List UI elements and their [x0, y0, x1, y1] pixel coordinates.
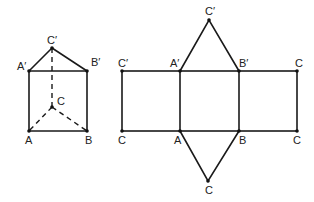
- diagram-canvas: C′ A′ B′ C A B C′ C′ A′ B′ C C A B C C: [0, 0, 314, 202]
- net-outer-rectangle: [122, 71, 297, 131]
- label-prism-b: B: [85, 135, 92, 146]
- label-net-bottom-apex: C: [205, 185, 213, 196]
- net-figure: [120, 18, 299, 183]
- edge-c-prime-b-prime: [52, 48, 87, 71]
- label-prism-a-prime: A′: [17, 61, 26, 72]
- edge-a-prime-c-prime: [29, 48, 52, 71]
- label-prism-b-prime: B′: [91, 57, 100, 68]
- label-net-bottom-right: C: [293, 135, 301, 146]
- label-net-top-left: C′: [118, 58, 128, 69]
- label-net-top-right: C: [295, 58, 303, 69]
- hidden-edge-c-a: [29, 107, 52, 131]
- net-top-triangle: [180, 20, 239, 71]
- net-bottom-triangle: [180, 131, 239, 181]
- diagram-svg: [0, 0, 314, 202]
- label-net-top-b-prime: B′: [239, 58, 248, 69]
- label-net-bottom-b: B: [239, 135, 246, 146]
- label-prism-c: C: [57, 96, 65, 107]
- label-net-top-a-prime: A′: [170, 58, 179, 69]
- label-net-bottom-a: A: [174, 135, 181, 146]
- label-net-bottom-left: C: [118, 135, 126, 146]
- label-prism-a: A: [25, 135, 32, 146]
- label-net-top-apex: C′: [205, 6, 215, 17]
- label-prism-c-prime: C′: [47, 35, 57, 46]
- prism-figure: [27, 46, 89, 133]
- hidden-edge-c-b: [52, 107, 87, 131]
